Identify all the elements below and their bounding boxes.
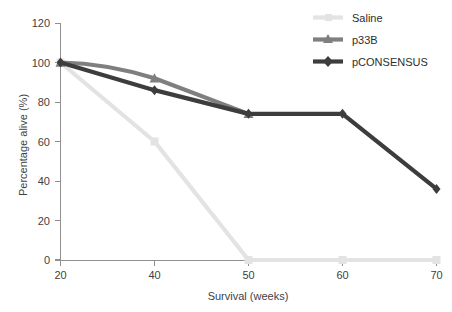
legend-label-pconsensus: pCONSENSUS [352, 56, 428, 68]
data-point-marker [433, 256, 441, 264]
y-tick-label-60: 60 [38, 136, 50, 148]
y-tick-label-20: 20 [38, 215, 50, 227]
y-tick-label-0: 0 [44, 254, 50, 266]
x-tick-label-20: 20 [54, 269, 66, 281]
y-tick-label-100: 100 [32, 57, 50, 69]
x-tick-label-70: 70 [430, 269, 442, 281]
data-point-marker [339, 256, 347, 264]
legend-marker-saline [325, 14, 332, 21]
y-axis-title: Percentage alive (%) [17, 94, 29, 196]
chart-figure: 120 100 80 60 40 20 0 Percentage alive (… [0, 0, 452, 312]
survival-line-chart: 120 100 80 60 40 20 0 Percentage alive (… [0, 0, 452, 312]
legend-label-p33b: p33B [352, 34, 378, 46]
x-tick-label-50: 50 [242, 269, 254, 281]
chart-background [0, 0, 452, 312]
data-point-marker [151, 138, 159, 146]
data-point-marker [245, 256, 253, 264]
x-tick-label-40: 40 [148, 269, 160, 281]
legend-label-saline: Saline [352, 12, 383, 24]
x-tick-label-60: 60 [336, 269, 348, 281]
x-axis-title: Survival (weeks) [208, 290, 289, 302]
y-tick-label-80: 80 [38, 96, 50, 108]
y-tick-label-120: 120 [32, 17, 50, 29]
y-tick-label-40: 40 [38, 175, 50, 187]
